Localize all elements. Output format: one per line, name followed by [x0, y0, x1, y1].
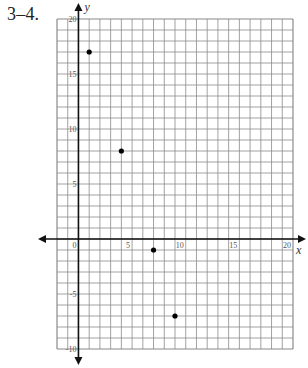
- y-tick-label: -10: [66, 345, 77, 354]
- y-tick-label: 10: [68, 125, 76, 134]
- x-axis-label: x: [295, 243, 302, 257]
- x-tick-label: 0: [72, 241, 76, 250]
- y-tick-label: 5: [72, 180, 76, 189]
- x-tick-label: 10: [176, 241, 184, 250]
- x-tick-label: 20: [283, 241, 291, 250]
- x-axis-right-arrow-icon: [298, 235, 306, 243]
- y-tick-label: 20: [68, 15, 76, 24]
- x-tick-label: 5: [126, 241, 130, 250]
- data-point: [87, 49, 92, 54]
- coordinate-grid-chart: xy 05101520-10-55101520: [0, 0, 308, 368]
- data-point: [151, 247, 156, 252]
- data-point: [119, 148, 124, 153]
- y-tick-label: -5: [70, 290, 77, 299]
- y-axis-up-arrow-icon: [74, 3, 82, 11]
- data-point: [172, 313, 177, 318]
- y-axis-down-arrow-icon: [74, 357, 82, 365]
- x-tick-label: 15: [229, 241, 237, 250]
- x-axis-left-arrow-icon: [38, 235, 46, 243]
- axes: xy: [38, 0, 306, 365]
- grid-lines: [57, 19, 293, 349]
- y-axis-label: y: [83, 0, 90, 14]
- y-tick-label: 15: [68, 70, 76, 79]
